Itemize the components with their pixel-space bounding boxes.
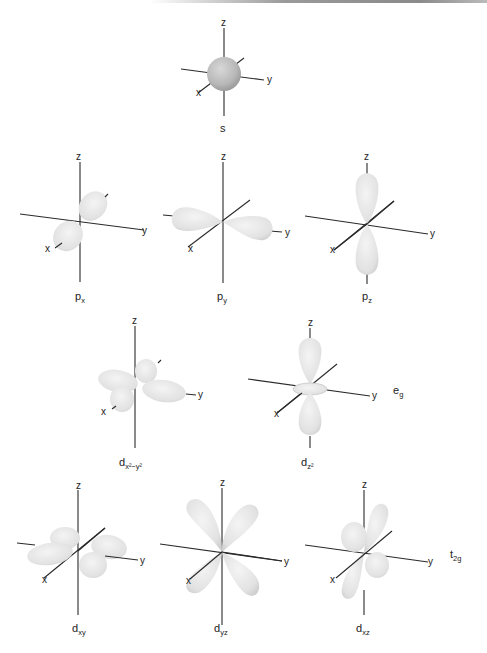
y-axis-label: y (198, 389, 203, 400)
orbital-s: z y x s (181, 17, 272, 134)
orbital-label-dxy: dxy (72, 622, 86, 637)
y-axis-label: y (140, 555, 145, 566)
orbital-dxz: z y x dxz (305, 479, 433, 637)
y-axis-label: y (428, 556, 433, 567)
y-axis-label: y (285, 227, 290, 238)
orbital-label-py: py (217, 290, 227, 305)
x-axis-label: x (45, 243, 50, 254)
orbital-dyz: z y x dyz (160, 477, 289, 637)
z-axis-label: z (76, 480, 81, 491)
orbital-px: z y x px (20, 151, 147, 305)
orbital-label-px: px (75, 290, 85, 305)
orbital-label-dx2-y2: dx²−y² (119, 456, 143, 471)
z-axis-label: z (221, 151, 226, 162)
orbital-dz2: z y x dz² (248, 317, 377, 471)
orbital-label-dz2: dz² (301, 456, 314, 471)
x-axis-label: x (42, 574, 47, 585)
z-axis-label: z (220, 477, 225, 488)
orbital-label-dyz: dyz (214, 622, 228, 637)
y-axis-label: y (372, 390, 377, 401)
orbital-pz: z y x pz (305, 151, 435, 305)
z-axis-label: z (221, 17, 226, 28)
orbital-dx2-y2: z y x dx²−y² (96, 315, 203, 471)
z-axis-label: z (132, 315, 137, 326)
orbital-diagram: z y x s z y x px z y x py (0, 0, 487, 653)
group-label-t2g: t2g (450, 548, 461, 563)
y-axis-label: y (284, 556, 289, 567)
x-axis-label: x (101, 406, 106, 417)
y-axis-label: y (142, 225, 147, 236)
y-axis-label: y (267, 74, 272, 85)
orbital-label-dxz: dxz (356, 622, 370, 637)
x-axis-label: x (186, 575, 191, 586)
x-axis-label: x (330, 244, 335, 255)
y-axis-label: y (430, 228, 435, 239)
x-axis-label: x (330, 574, 335, 585)
z-axis-label: z (308, 317, 313, 328)
orbital-label-pz: pz (362, 290, 372, 305)
orbital-label-s: s (220, 122, 226, 134)
orbital-dxy: z y x dxy (17, 480, 145, 637)
x-axis-label: x (196, 87, 201, 98)
orbital-py: z y x py (163, 151, 290, 305)
group-label-eg: eg (393, 384, 403, 399)
z-axis-label: z (76, 151, 81, 162)
x-axis-label: x (188, 243, 193, 254)
z-axis-label: z (364, 151, 369, 162)
x-axis-label: x (274, 408, 279, 419)
z-axis-label: z (362, 479, 367, 490)
